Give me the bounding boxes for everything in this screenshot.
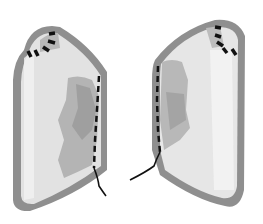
flap-illustration bbox=[0, 0, 263, 224]
right-flap bbox=[130, 20, 245, 207]
left-flap bbox=[13, 26, 107, 211]
illustration bbox=[0, 0, 263, 224]
